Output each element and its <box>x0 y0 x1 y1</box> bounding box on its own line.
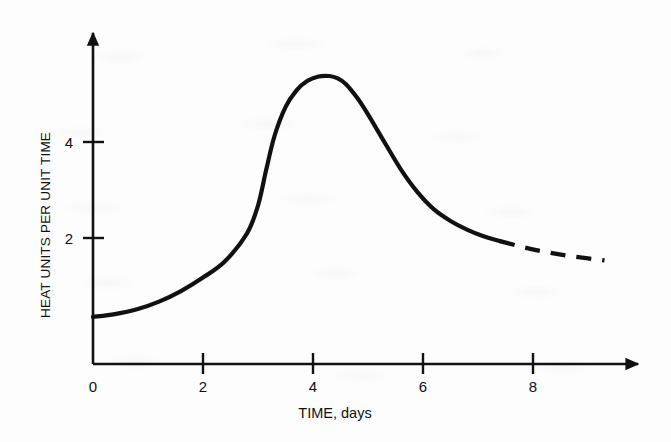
x-tick-label-6: 6 <box>419 378 427 395</box>
y-tick-label-2: 2 <box>65 230 73 247</box>
line-chart: 4 2 HEAT UNITS PER UNIT TIME 0 2 4 6 8 T… <box>0 0 671 442</box>
x-axis-title: TIME, days <box>298 405 371 421</box>
x-tick-label-4: 4 <box>309 378 317 395</box>
y-axis-title: HEAT UNITS PER UNIT TIME <box>38 132 53 318</box>
x-tick-label-8: 8 <box>529 378 537 395</box>
x-tick-label-0: 0 <box>89 378 97 395</box>
x-tick-label-2: 2 <box>199 378 207 395</box>
y-tick-label-4: 4 <box>65 134 73 151</box>
data-curve-dashed-extrapolation <box>500 241 605 260</box>
data-curve-solid <box>93 76 500 317</box>
chart-figure: 4 2 HEAT UNITS PER UNIT TIME 0 2 4 6 8 T… <box>0 0 671 442</box>
